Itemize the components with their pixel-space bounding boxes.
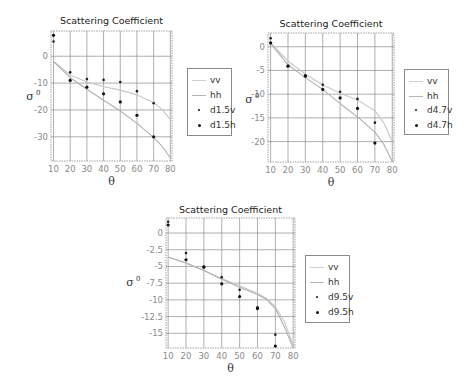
y-tick-label: -10 <box>149 295 163 305</box>
grid-lines <box>51 31 172 161</box>
data-point-d4.7v <box>339 91 342 94</box>
y-axis-label-superscript: 0 <box>255 92 259 100</box>
line-swatch-icon <box>192 95 206 96</box>
data-point-d9.5h <box>184 258 187 261</box>
data-point-d1.5v <box>119 81 122 84</box>
legend-item-hh: hh <box>188 88 221 102</box>
y-tick-label: -10 <box>34 78 48 88</box>
point-marker-icon <box>310 311 324 314</box>
data-point-d9.5h <box>220 282 223 285</box>
data-point-d4.7v <box>269 37 272 40</box>
data-point-d1.5h <box>85 86 88 89</box>
chart-title: Scattering Coefficient <box>179 204 282 215</box>
point-marker-icon <box>310 296 324 298</box>
x-tick-label: 20 <box>283 165 294 175</box>
series-line-vv <box>271 43 393 142</box>
y-axis-label: σ <box>126 276 134 289</box>
data-point-d4.7v <box>374 121 377 124</box>
legend-item-d1-5v: d1.5v <box>188 103 235 117</box>
x-tick-label: 40 <box>98 164 109 174</box>
point-marker-icon <box>192 124 206 127</box>
x-axis-label: θ <box>108 175 115 188</box>
legend-item-vv: vv <box>405 74 438 88</box>
data-point-d9.5v <box>220 276 223 279</box>
series-line-vv <box>168 257 293 345</box>
data-point-d1.5v <box>152 102 155 105</box>
line-swatch-icon <box>192 80 206 81</box>
x-tick-label: 40 <box>216 351 227 361</box>
x-tick-label: 20 <box>65 164 76 174</box>
data-point-d1.5v <box>102 79 105 82</box>
data-point-d1.5v <box>69 71 72 74</box>
data-point-d9.5h <box>202 266 205 269</box>
chart-title: Scattering Coefficient <box>60 15 163 26</box>
legend-item-d9-5v: d9.5v <box>306 290 353 304</box>
data-point-d9.5h <box>167 223 170 226</box>
y-tick-label: -20 <box>34 105 48 115</box>
x-tick-label: 80 <box>288 351 299 361</box>
y-tick-label: -15 <box>251 113 265 123</box>
data-point-d1.5v <box>86 78 89 81</box>
x-tick-label: 30 <box>300 165 311 175</box>
line-swatch-icon <box>409 96 423 97</box>
x-tick-label: 50 <box>335 165 346 175</box>
line-swatch-icon <box>409 81 423 82</box>
x-tick-label: 10 <box>48 164 59 174</box>
legend-item-hh: hh <box>405 89 438 103</box>
y-tick-label: -15 <box>149 328 163 338</box>
x-tick-label: 40 <box>317 165 328 175</box>
data-point-d9.5h <box>238 295 241 298</box>
x-axis-label: θ <box>328 176 335 189</box>
x-tick-label: 70 <box>148 164 159 174</box>
chart-2: 10203040506070800-5-10-15-20Scattering C… <box>236 0 472 200</box>
x-tick-label: 50 <box>115 164 126 174</box>
data-point-d4.7h <box>356 107 359 110</box>
data-point-d4.7v <box>321 83 324 86</box>
y-axis-label-superscript: 0 <box>36 89 40 97</box>
y-axis-label: σ <box>26 90 34 103</box>
data-point-d4.7v <box>356 98 359 101</box>
data-point-d4.7h <box>321 88 324 91</box>
data-point-d9.5h <box>256 307 259 310</box>
data-point-d4.7h <box>304 75 307 78</box>
legend-item-d4-7h: d4.7h <box>405 118 453 132</box>
x-tick-label: 70 <box>369 165 380 175</box>
point-marker-icon <box>409 124 423 127</box>
data-point-d1.5h <box>119 100 122 103</box>
x-axis-label: θ <box>227 362 234 375</box>
x-tick-label: 10 <box>163 351 174 361</box>
chart-title: Scattering Coefficient <box>280 18 383 29</box>
y-axis-label: σ <box>245 93 253 106</box>
data-point-d9.5h <box>274 344 277 347</box>
y-tick-label: -2.5 <box>146 245 163 255</box>
y-tick-label: -7.5 <box>146 278 163 288</box>
line-swatch-icon <box>310 267 324 268</box>
point-marker-icon <box>409 109 423 111</box>
x-tick-label: 80 <box>387 165 398 175</box>
x-tick-label: 20 <box>181 351 192 361</box>
data-point-d9.5v <box>238 289 241 292</box>
y-tick-label: -12.5 <box>141 312 163 322</box>
data-point-d9.5v <box>274 333 277 336</box>
data-point-d1.5v <box>52 40 55 43</box>
series-line-vv <box>54 61 171 119</box>
chart-1: 10203040506070800-10-20-30Scattering Coe… <box>0 0 236 200</box>
data-point-d1.5h <box>102 92 105 95</box>
legend-item-d4-7v: d4.7v <box>405 103 452 117</box>
x-tick-label: 70 <box>270 351 281 361</box>
legend-item-d9-5h: d9.5h <box>306 305 354 319</box>
x-tick-label: 80 <box>165 164 176 174</box>
x-tick-label: 30 <box>198 351 209 361</box>
y-tick-label: -5 <box>257 65 265 75</box>
legend-item-hh: hh <box>306 275 339 289</box>
data-point-d9.5v <box>185 252 188 255</box>
data-point-d4.7h <box>373 141 376 144</box>
chart-2-legend: vv hh d4.7v d4.7h <box>404 69 449 135</box>
y-tick-label: 0 <box>260 42 265 52</box>
data-point-d1.5h <box>52 34 55 37</box>
y-tick-label: 0 <box>43 51 48 61</box>
data-point-d4.7h <box>286 65 289 68</box>
data-point-d4.7h <box>339 96 342 99</box>
y-tick-label: -5 <box>155 261 163 271</box>
chart-3: 10203040506070800-2.5-5-7.5-10-12.5-15Sc… <box>120 200 380 387</box>
